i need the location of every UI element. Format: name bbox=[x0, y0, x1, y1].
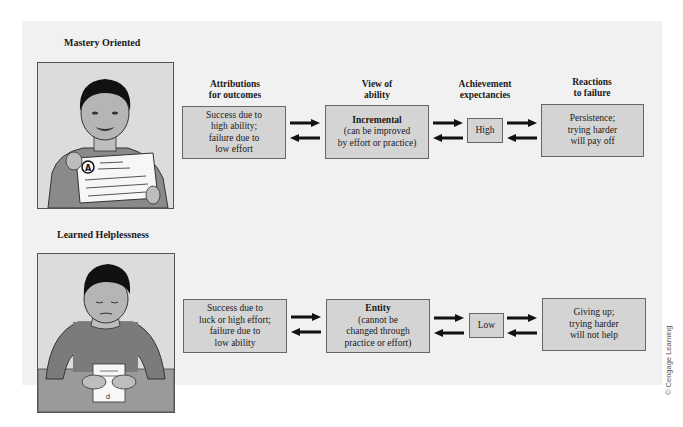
boy-looking-down-icon: d bbox=[38, 254, 174, 412]
svg-text:A: A bbox=[85, 164, 92, 173]
box-text-line: high ability; bbox=[206, 121, 262, 133]
box-text-line: luck or high effort; bbox=[199, 315, 271, 327]
box-attribution-helplessness: Success due to luck or high effort; fail… bbox=[183, 299, 287, 353]
column-header-reactions-to-failure: Reactions to failure bbox=[542, 77, 642, 99]
arrow-right-icon bbox=[507, 314, 537, 322]
arrow-right-icon bbox=[507, 119, 537, 127]
header-line: expectancies bbox=[460, 90, 511, 100]
box-text-line: Giving up; bbox=[569, 307, 618, 319]
arrow-left-icon bbox=[507, 329, 537, 337]
box-text-line: low ability bbox=[199, 338, 271, 350]
column-header-achievement-expectancies: Achievement expectancies bbox=[435, 79, 535, 101]
arrow-right-icon bbox=[433, 119, 463, 127]
arrow-left-icon bbox=[434, 329, 464, 337]
arrow-left-icon bbox=[291, 328, 321, 336]
header-line: Achievement bbox=[459, 79, 512, 89]
header-line: to failure bbox=[573, 88, 610, 98]
box-text-line: Success due to bbox=[199, 303, 271, 315]
box-expectancy-low: Low bbox=[469, 313, 504, 338]
box-text-line: practice or effort) bbox=[345, 338, 412, 350]
box-reaction-giving-up: Giving up; trying harder will not help bbox=[542, 298, 646, 351]
box-text-line: will not help bbox=[569, 330, 618, 342]
box-heading: Entity bbox=[345, 303, 412, 315]
arrow-left-icon bbox=[433, 134, 463, 142]
copyright-credit: © Cengage Learning bbox=[664, 326, 673, 395]
box-heading: Incremental bbox=[338, 115, 417, 127]
arrow-left-icon bbox=[507, 134, 537, 142]
box-text-line: low effort bbox=[206, 144, 262, 156]
box-text-line: changed through bbox=[345, 326, 412, 338]
header-line: Reactions bbox=[572, 77, 612, 87]
boy-holding-paper-icon: A bbox=[38, 63, 173, 208]
box-reaction-persistence: Persistence; trying harder will pay off bbox=[541, 104, 644, 157]
box-text-line: Success due to bbox=[206, 110, 262, 122]
box-text-line: High bbox=[476, 125, 495, 137]
column-header-view-of-ability: View of ability bbox=[327, 79, 427, 101]
arrow-right-icon bbox=[434, 314, 464, 322]
box-text-line: will pay off bbox=[568, 136, 617, 148]
arrow-right-icon bbox=[291, 313, 321, 321]
box-text-line: failure due to bbox=[199, 326, 271, 338]
box-expectancy-high: High bbox=[467, 118, 503, 143]
box-text-line: Persistence; bbox=[568, 113, 617, 125]
header-line: ability bbox=[364, 90, 390, 100]
header-line: Attributions bbox=[210, 79, 260, 89]
box-text-line: (can be improved bbox=[338, 126, 417, 138]
header-line: View of bbox=[362, 79, 393, 89]
box-text-line: failure due to bbox=[206, 133, 262, 145]
box-view-of-ability-incremental: Incremental (can be improved by effort o… bbox=[325, 105, 429, 159]
arrow-left-icon bbox=[290, 134, 320, 142]
box-text-line: (cannot be bbox=[345, 315, 412, 327]
box-text-line: trying harder bbox=[569, 319, 618, 331]
row-title-mastery-oriented: Mastery Oriented bbox=[64, 37, 140, 48]
svg-text:d: d bbox=[106, 393, 110, 401]
box-text-line: by effort or practice) bbox=[338, 138, 417, 150]
header-line: for outcomes bbox=[209, 90, 261, 100]
box-attribution-mastery: Success due to high ability; failure due… bbox=[182, 106, 286, 159]
illustration-mastery-boy: A bbox=[37, 62, 174, 209]
column-header-attributions: Attributions for outcomes bbox=[185, 79, 285, 101]
arrow-right-icon bbox=[290, 119, 320, 127]
box-view-of-ability-entity: Entity (cannot be changed through practi… bbox=[326, 299, 430, 353]
row-title-learned-helplessness: Learned Helplessness bbox=[57, 229, 149, 240]
box-text-line: trying harder bbox=[568, 125, 617, 137]
illustration-helpless-boy: d bbox=[37, 253, 175, 413]
box-text-line: Low bbox=[478, 320, 495, 332]
